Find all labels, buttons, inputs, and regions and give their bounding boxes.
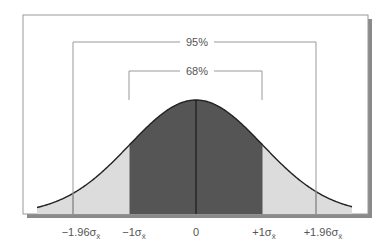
axis-labels: −1.96σx̄ −1σx̄ 0 +1σx̄ +1.96σx̄ (62, 226, 343, 241)
label-plus-1-sigma: +1σx̄ (252, 226, 275, 241)
label-zero: 0 (193, 226, 199, 238)
bracket-68-label: 68% (186, 65, 208, 77)
label-minus-1-sigma: −1σx̄ (122, 226, 145, 241)
normal-distribution-diagram: 95% 68% −1.96σx̄ −1σx̄ 0 +1σx̄ +1.96σx̄ (0, 0, 389, 250)
label-plus-1-96-sigma: +1.96σx̄ (304, 226, 343, 241)
bracket-95-label: 95% (186, 36, 208, 48)
label-minus-1-96-sigma: −1.96σx̄ (62, 226, 101, 241)
